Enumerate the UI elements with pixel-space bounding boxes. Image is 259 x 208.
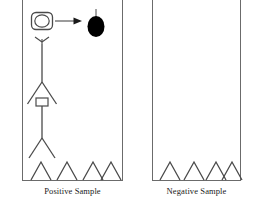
panel-positive-sample [22,0,123,181]
panel-negative-sample [152,0,241,181]
caption-negative-sample: Negative Sample [152,186,241,196]
figure-root: Positive Sample Negative Sample [0,0,259,208]
caption-positive-sample: Positive Sample [22,186,123,196]
